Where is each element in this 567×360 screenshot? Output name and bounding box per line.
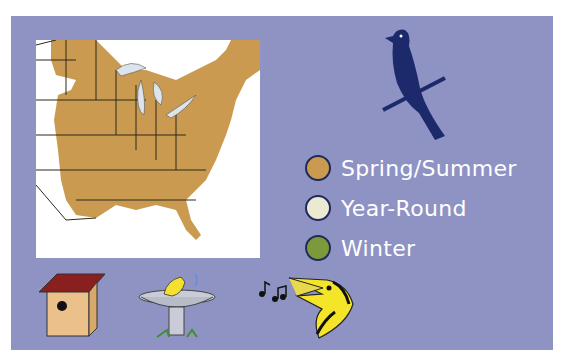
swatch-winter	[305, 235, 331, 261]
singing-bird-icon	[287, 274, 357, 344]
legend-item-year-round: Year-Round	[305, 188, 517, 228]
legend-item-winter: Winter	[305, 228, 517, 268]
legend-label: Spring/Summer	[341, 156, 517, 181]
range-map	[36, 40, 260, 258]
swatch-spring-summer	[305, 155, 331, 181]
swatch-year-round	[305, 195, 331, 221]
legend: Spring/Summer Year-Round Winter	[305, 148, 517, 268]
birdbath-icon	[137, 272, 217, 344]
legend-label: Winter	[341, 236, 415, 261]
legend-label: Year-Round	[341, 196, 467, 221]
birdhouse-icon	[37, 272, 107, 342]
legend-item-spring-summer: Spring/Summer	[305, 148, 517, 188]
bird-silhouette-icon	[375, 28, 447, 147]
music-notes-icon	[258, 280, 288, 308]
